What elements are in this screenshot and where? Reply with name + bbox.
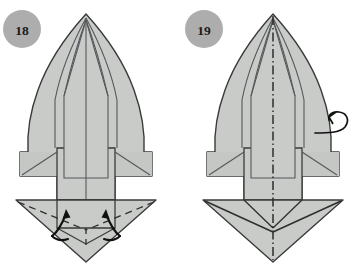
origami-diagram-root: 18: [0, 0, 357, 272]
step-number-label: 19: [197, 23, 211, 38]
figure-19-paper-model: [203, 14, 347, 262]
figure-19-canvas: 19: [0, 0, 357, 272]
step-badge-19: 19: [185, 10, 223, 48]
